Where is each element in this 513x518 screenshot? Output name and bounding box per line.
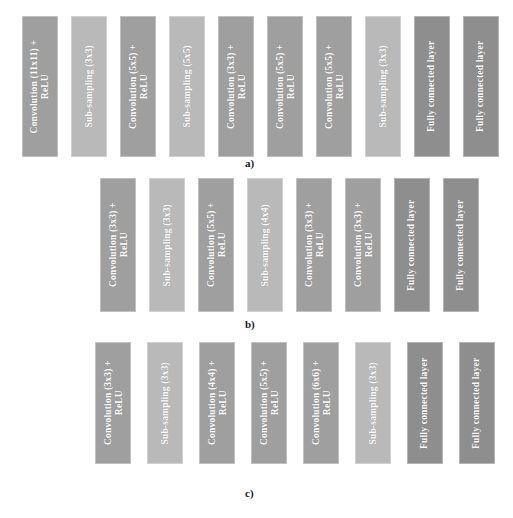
layer-label-line1: Sub-sampling (4x4) [260, 204, 271, 287]
layer-block-label: Sub-sampling (3x3) [160, 362, 171, 445]
layer-block-label: Convolution (11x11) +ReLU [29, 40, 50, 134]
layer-block-subsampling: Sub-sampling (3x3) [149, 178, 185, 312]
layer-label-line1: Convolution (3x3) + [303, 203, 314, 288]
layer-block-convolution: Convolution (5x5) +ReLU [267, 16, 303, 157]
layer-block-label: Fully connected layer [476, 41, 487, 132]
layer-block-convolution: Convolution (3x3) +ReLU [95, 342, 131, 464]
layer-block-subsampling: Sub-sampling (3x3) [355, 342, 391, 464]
layer-block-label: Fully connected layer [456, 199, 467, 290]
layer-block-convolution: Convolution (3x3) +ReLU [100, 178, 136, 312]
layer-block-label: Convolution (3x3) +ReLU [107, 203, 128, 288]
layer-block-label: Fully connected layer [427, 41, 438, 132]
layer-block-convolution: Convolution (4x4) +ReLU [199, 342, 235, 464]
layer-label-line1: Convolution (5x5) + [323, 44, 334, 129]
layer-block-label: Convolution (6x6) +ReLU [310, 361, 331, 446]
layer-block-label: Sub-sampling (3x3) [84, 45, 95, 128]
layer-label-line2: ReLU [216, 203, 227, 288]
layer-block-subsampling: Sub-sampling (4x4) [247, 178, 283, 312]
layer-block-label: Convolution (3x3) +ReLU [352, 203, 373, 288]
layer-label-line1: Convolution (11x11) + [29, 40, 40, 134]
layer-block-label: Convolution (3x3) +ReLU [102, 361, 123, 446]
architecture-row-b: Convolution (3x3) +ReLUSub-sampling (3x3… [100, 178, 479, 312]
layer-label-line1: Fully connected layer [407, 199, 418, 290]
layer-label-line1: Convolution (3x3) + [102, 361, 113, 446]
layer-block-label: Convolution (5x5) +ReLU [127, 44, 148, 129]
layer-block-label: Sub-sampling (5x5) [182, 45, 193, 128]
layer-block-label: Sub-sampling (3x3) [162, 204, 173, 287]
layer-block-label: Sub-sampling (4x4) [260, 204, 271, 287]
layer-block-fully-connected: Fully connected layer [394, 178, 430, 312]
layer-block-label: Convolution (4x4) +ReLU [206, 361, 227, 446]
layer-label-line2: ReLU [363, 203, 374, 288]
layer-block-subsampling: Sub-sampling (3x3) [71, 16, 107, 157]
layer-block-label: Convolution (5x5) +ReLU [205, 203, 226, 288]
architecture-row-c: Convolution (3x3) +ReLUSub-sampling (3x3… [95, 342, 495, 464]
cnn-architecture-figure: Convolution (11x11) +ReLUSub-sampling (3… [0, 0, 513, 518]
layer-label-line2: ReLU [321, 361, 332, 446]
layer-block-label: Convolution (5x5) +ReLU [323, 44, 344, 129]
layer-label-line1: Convolution (5x5) + [205, 203, 216, 288]
layer-label-line1: Sub-sampling (3x3) [378, 45, 389, 128]
layer-block-convolution: Convolution (6x6) +ReLU [303, 342, 339, 464]
layer-label-line1: Convolution (5x5) + [258, 361, 269, 446]
layer-block-fully-connected: Fully connected layer [414, 16, 450, 157]
layer-label-line1: Convolution (5x5) + [127, 44, 138, 129]
layer-label-line2: ReLU [138, 44, 149, 129]
layer-label-line1: Sub-sampling (5x5) [182, 45, 193, 128]
layer-label-line1: Sub-sampling (3x3) [84, 45, 95, 128]
layer-block-fully-connected: Fully connected layer [459, 342, 495, 464]
layer-block-convolution: Convolution (5x5) +ReLU [251, 342, 287, 464]
layer-block-subsampling: Sub-sampling (3x3) [147, 342, 183, 464]
layer-label-line2: ReLU [285, 44, 296, 129]
layer-label-line1: Sub-sampling (3x3) [162, 204, 173, 287]
layer-block-convolution: Convolution (5x5) +ReLU [198, 178, 234, 312]
layer-block-label: Fully connected layer [407, 199, 418, 290]
layer-label-line2: ReLU [118, 203, 129, 288]
layer-block-label: Convolution (5x5) +ReLU [274, 44, 295, 129]
layer-block-label: Sub-sampling (3x3) [368, 362, 379, 445]
layer-label-line1: Sub-sampling (3x3) [160, 362, 171, 445]
layer-block-subsampling: Sub-sampling (3x3) [365, 16, 401, 157]
layer-block-fully-connected: Fully connected layer [463, 16, 499, 157]
layer-block-label: Fully connected layer [420, 357, 431, 448]
layer-label-line1: Fully connected layer [427, 41, 438, 132]
layer-label-line1: Convolution (3x3) + [107, 203, 118, 288]
layer-label-line1: Fully connected layer [456, 199, 467, 290]
layer-block-label: Convolution (5x5) +ReLU [258, 361, 279, 446]
layer-block-convolution: Convolution (5x5) +ReLU [316, 16, 352, 157]
subfigure-caption: a) [245, 157, 254, 169]
layer-block-convolution: Convolution (11x11) +ReLU [22, 16, 58, 157]
architecture-row-a: Convolution (11x11) +ReLUSub-sampling (3… [22, 16, 499, 157]
layer-label-line1: Fully connected layer [420, 357, 431, 448]
layer-block-fully-connected: Fully connected layer [443, 178, 479, 312]
layer-label-line1: Sub-sampling (3x3) [368, 362, 379, 445]
layer-label-line2: ReLU [40, 40, 51, 134]
layer-block-convolution: Convolution (3x3) +ReLU [218, 16, 254, 157]
layer-label-line1: Convolution (3x3) + [352, 203, 363, 288]
layer-label-line2: ReLU [236, 44, 247, 129]
layer-block-convolution: Convolution (5x5) +ReLU [120, 16, 156, 157]
layer-label-line1: Convolution (5x5) + [274, 44, 285, 129]
layer-label-line1: Fully connected layer [472, 357, 483, 448]
layer-label-line2: ReLU [113, 361, 124, 446]
subfigure-caption: b) [245, 318, 255, 330]
layer-block-subsampling: Sub-sampling (5x5) [169, 16, 205, 157]
layer-label-line1: Fully connected layer [476, 41, 487, 132]
layer-block-label: Fully connected layer [472, 357, 483, 448]
layer-block-label: Sub-sampling (3x3) [378, 45, 389, 128]
layer-block-label: Convolution (3x3) +ReLU [303, 203, 324, 288]
layer-label-line2: ReLU [217, 361, 228, 446]
layer-label-line2: ReLU [314, 203, 325, 288]
layer-block-label: Convolution (3x3) +ReLU [225, 44, 246, 129]
subfigure-caption: c) [245, 487, 254, 499]
layer-block-convolution: Convolution (3x3) +ReLU [345, 178, 381, 312]
layer-block-fully-connected: Fully connected layer [407, 342, 443, 464]
layer-label-line2: ReLU [269, 361, 280, 446]
layer-block-convolution: Convolution (3x3) +ReLU [296, 178, 332, 312]
layer-label-line1: Convolution (6x6) + [310, 361, 321, 446]
layer-label-line1: Convolution (3x3) + [225, 44, 236, 129]
layer-label-line1: Convolution (4x4) + [206, 361, 217, 446]
layer-label-line2: ReLU [334, 44, 345, 129]
